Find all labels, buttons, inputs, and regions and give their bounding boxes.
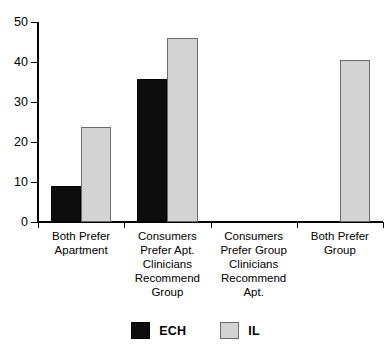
y-axis-tick-label: 30 <box>14 94 28 110</box>
y-axis-tick-label: 40 <box>14 54 28 70</box>
y-axis-tick: 20 <box>31 142 38 143</box>
chart-legend: ECHIL <box>0 322 391 339</box>
bar-chart: 01020304050 Both Prefer ApartmentConsume… <box>0 0 391 351</box>
x-axis-tick <box>38 222 39 228</box>
bar-il-cat2 <box>167 38 197 222</box>
y-axis-tick-label: 10 <box>14 174 28 190</box>
x-axis-category-labels: Both Prefer ApartmentConsumers Prefer Ap… <box>38 229 383 301</box>
y-axis-tick: 30 <box>31 102 38 103</box>
bar-ech-cat2 <box>137 79 167 222</box>
x-axis-tick <box>124 222 125 228</box>
y-axis-tick-label: 0 <box>21 214 28 230</box>
x-axis-category-label: Both Prefer Apartment <box>38 229 124 257</box>
x-axis-category-label: Both Prefer Group <box>297 229 383 257</box>
y-axis-tick-label: 20 <box>14 134 28 150</box>
x-axis-tick <box>383 222 384 228</box>
legend-item-ech: ECH <box>131 322 186 339</box>
plot-area <box>38 22 383 222</box>
legend-label: ECH <box>159 324 186 338</box>
y-axis-tick: 50 <box>31 22 38 23</box>
bar-ech-cat1 <box>51 186 81 222</box>
x-axis-category-label: Consumers Prefer Group Clinicians Recomm… <box>211 229 297 299</box>
gray-square-swatch <box>220 322 239 339</box>
y-axis-tick-label: 50 <box>14 14 28 30</box>
y-axis-tick: 10 <box>31 182 38 183</box>
x-axis-tick <box>211 222 212 228</box>
bar-il-cat1 <box>81 127 111 222</box>
x-axis-category-label: Consumers Prefer Apt. Clinicians Recomme… <box>124 229 210 299</box>
y-axis-tick: 40 <box>31 62 38 63</box>
legend-label: IL <box>248 324 260 338</box>
legend-item-il: IL <box>220 322 260 339</box>
y-axis-tick: 0 <box>31 222 38 223</box>
bar-il-cat4 <box>340 60 370 222</box>
x-axis-tick <box>297 222 298 228</box>
black-square-swatch <box>131 322 150 339</box>
